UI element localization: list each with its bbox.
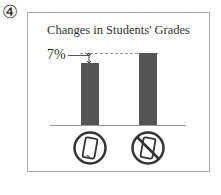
phone-icon — [72, 130, 108, 166]
difference-label: 7% — [47, 47, 66, 63]
bar-with-phone — [81, 63, 99, 125]
figure-number: ④ — [2, 2, 22, 22]
bar-no-phone — [139, 53, 157, 125]
chart-frame: Changes in Students' Grades — [27, 12, 210, 172]
x-axis-baseline — [50, 125, 186, 126]
no-phone-icon — [130, 130, 166, 166]
chart-title: Changes in Students' Grades — [28, 23, 209, 38]
